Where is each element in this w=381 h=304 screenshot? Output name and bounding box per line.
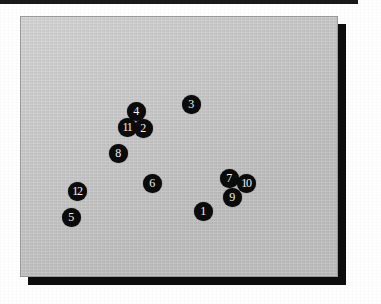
map-marker-label: 8: [115, 146, 121, 160]
map-marker-label: 12: [72, 184, 82, 198]
figure-page: 431128671091215: [0, 0, 381, 304]
map-marker[interactable]: 2: [134, 119, 153, 138]
map-marker[interactable]: 1: [194, 202, 213, 221]
map-marker-label: 9: [229, 190, 235, 204]
map-marker[interactable]: 3: [182, 95, 201, 114]
map-marker-label: 1: [200, 204, 206, 218]
map-marker[interactable]: 8: [109, 144, 128, 163]
map-marker-label: 7: [226, 171, 232, 185]
map-marker[interactable]: 7: [220, 169, 239, 188]
map-marker-label: 4: [133, 104, 139, 118]
map-marker[interactable]: 10: [237, 174, 256, 193]
map-marker[interactable]: 12: [68, 182, 87, 201]
map-marker-label: 11: [122, 120, 131, 134]
map-marker-label: 5: [68, 210, 74, 224]
map-marker[interactable]: 6: [143, 174, 162, 193]
panel-shading: [21, 17, 337, 276]
map-marker[interactable]: 5: [62, 208, 81, 227]
map-marker-label: 3: [188, 97, 194, 111]
map-marker-label: 10: [241, 176, 251, 190]
map-marker-label: 2: [140, 121, 146, 135]
panel-texture: [21, 17, 337, 276]
scan-edge-band: [0, 0, 358, 4]
map-panel[interactable]: 431128671091215: [20, 16, 338, 277]
map-marker[interactable]: 9: [223, 188, 242, 207]
map-marker-label: 6: [149, 176, 155, 190]
